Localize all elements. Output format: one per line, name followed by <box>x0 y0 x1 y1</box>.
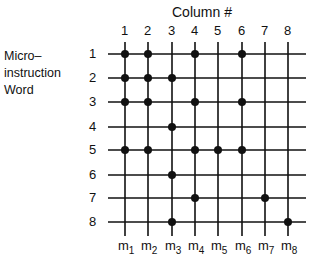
connection-dot <box>191 50 199 58</box>
connection-dot <box>144 98 152 106</box>
output-label-m6: m6 <box>235 239 251 258</box>
connection-dot <box>121 50 129 58</box>
connection-dot <box>238 146 246 154</box>
column-number-label: 5 <box>214 24 221 38</box>
column-number-label: 1 <box>121 24 128 38</box>
connection-dot <box>191 98 199 106</box>
row-number-label: 3 <box>89 95 96 109</box>
connection-dot <box>121 74 129 82</box>
row-number-label: 7 <box>89 191 96 205</box>
column-number-label: 4 <box>191 24 198 38</box>
output-label-m1: m1 <box>118 239 134 258</box>
connection-dot <box>191 194 199 202</box>
output-label-m4: m4 <box>188 239 204 258</box>
connection-dot <box>121 146 129 154</box>
column-number-label: 7 <box>261 24 268 38</box>
connection-dot <box>214 146 222 154</box>
connection-dot <box>284 218 292 226</box>
connection-dot <box>168 123 176 131</box>
row-number-label: 4 <box>89 120 96 134</box>
connection-dot <box>144 146 152 154</box>
row-number-label: 5 <box>89 143 96 157</box>
connection-dot <box>261 194 269 202</box>
column-number-label: 2 <box>144 24 151 38</box>
connection-dot <box>121 98 129 106</box>
connection-dot <box>238 98 246 106</box>
column-number-label: 8 <box>284 24 291 38</box>
connection-dot <box>168 74 176 82</box>
output-label-m7: m7 <box>258 239 274 258</box>
column-number-label: 6 <box>238 24 245 38</box>
output-label-m8: m8 <box>281 239 297 258</box>
matrix-grid <box>0 0 316 263</box>
row-number-label: 2 <box>89 71 96 85</box>
row-number-label: 6 <box>89 168 96 182</box>
row-number-label: 1 <box>89 47 96 61</box>
connection-dot <box>238 50 246 58</box>
connection-dot <box>191 146 199 154</box>
output-label-m5: m5 <box>211 239 227 258</box>
connection-dot <box>144 74 152 82</box>
connection-dot <box>168 218 176 226</box>
row-number-label: 8 <box>89 215 96 229</box>
column-number-label: 3 <box>168 24 175 38</box>
connection-dot <box>168 171 176 179</box>
output-label-m3: m3 <box>165 239 181 258</box>
output-label-m2: m2 <box>141 239 157 258</box>
connection-dot <box>144 50 152 58</box>
